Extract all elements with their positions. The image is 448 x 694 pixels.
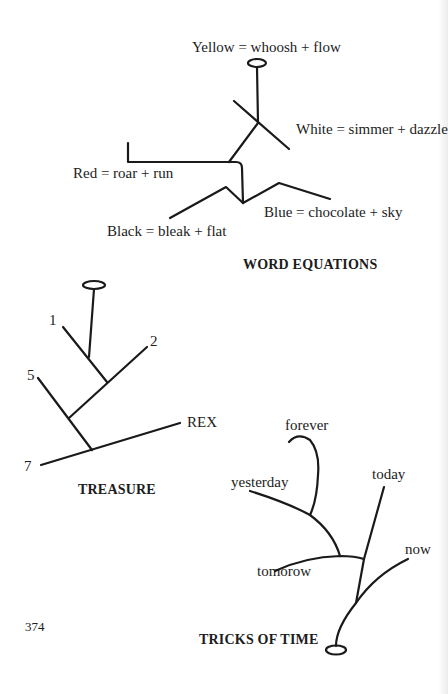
blue-branch xyxy=(243,183,330,203)
red-label: Red = roar + run xyxy=(73,166,173,181)
treasure-branch-1 xyxy=(63,327,107,382)
treasure-label-2: 2 xyxy=(150,334,158,349)
diagram-canvas xyxy=(0,0,448,694)
treasure-label-7: 7 xyxy=(24,459,32,474)
blue-label: Blue = chocolate + sky xyxy=(264,205,403,220)
word-equations-tree xyxy=(128,59,330,218)
yellow-label: Yellow = whoosh + flow xyxy=(192,40,341,55)
treasure-label-5: 5 xyxy=(27,368,35,383)
treasure-tree xyxy=(38,281,180,465)
yellow-branch xyxy=(257,67,258,123)
treasure-stem xyxy=(89,289,94,357)
treasure-root-ellipse xyxy=(83,281,105,289)
page-number: 374 xyxy=(25,619,45,635)
treasure-branch-5 xyxy=(38,378,92,450)
tomorow-label: tomorow xyxy=(257,564,311,579)
now-label: now xyxy=(405,542,431,557)
treasure-caption: TREASURE xyxy=(78,482,156,498)
yesterday-label: yesterday xyxy=(231,475,288,490)
treasure-branch-rex xyxy=(41,423,180,465)
treasure-label-1: 1 xyxy=(49,313,57,328)
treasure-branch-2 xyxy=(69,347,147,418)
treasure-label-rex: REX xyxy=(187,415,217,430)
forever-branch xyxy=(289,436,318,515)
word-equations-root-ellipse xyxy=(248,59,266,67)
time-stem xyxy=(336,603,356,646)
word-equations-caption: WORD EQUATIONS xyxy=(243,257,377,273)
today-label: today xyxy=(372,467,405,482)
yesterday-branch xyxy=(250,491,340,556)
black-branch xyxy=(170,187,243,218)
forever-label: forever xyxy=(285,418,328,433)
tricks-of-time-caption: TRICKS OF TIME xyxy=(199,632,319,648)
white-branch xyxy=(234,101,289,149)
white-label: White = simmer + dazzle xyxy=(296,122,448,137)
junction-branch xyxy=(229,123,258,162)
black-label: Black = bleak + flat xyxy=(107,224,226,239)
